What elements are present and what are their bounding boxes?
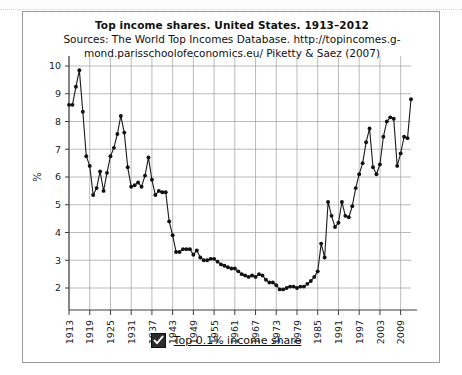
series-markers-top-0-1-pct — [67, 68, 413, 291]
svg-text:2: 2 — [55, 282, 61, 293]
y-axis-ticks: 2345678910 — [49, 60, 69, 293]
svg-text:10: 10 — [49, 60, 61, 71]
svg-text:8: 8 — [55, 116, 61, 127]
svg-text:5: 5 — [55, 199, 61, 210]
svg-text:9: 9 — [55, 88, 61, 99]
legend-item-top-0-1-pct[interactable]: Top 0.1% income share — [151, 333, 302, 348]
svg-text:7: 7 — [55, 144, 61, 155]
svg-text:%: % — [32, 172, 43, 182]
svg-text:6: 6 — [55, 171, 61, 182]
svg-text:3: 3 — [55, 255, 61, 266]
plot-area: 2345678910 19131919192519311937194319491… — [23, 12, 441, 364]
line-chart-svg: 2345678910 19131919192519311937194319491… — [23, 12, 441, 364]
screenshot-top-artifact — [0, 0, 462, 10]
legend-label[interactable]: Top 0.1% income share — [174, 334, 302, 347]
check-icon[interactable] — [151, 333, 166, 348]
gridlines-horizontal — [69, 66, 411, 288]
legend: Top 0.1% income share — [23, 333, 441, 348]
y-axis-title: % — [32, 172, 43, 182]
series-line-top-0-1-pct — [69, 70, 411, 289]
chart-panel: Top income shares. United States. 1913–2… — [22, 11, 440, 363]
svg-text:4: 4 — [55, 227, 61, 238]
